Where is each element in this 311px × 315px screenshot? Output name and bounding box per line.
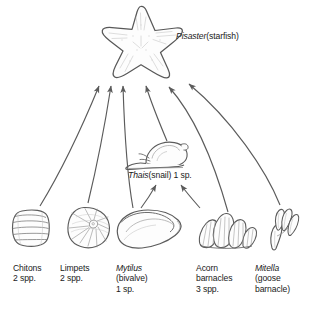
- label-thais-genus: Thais: [128, 170, 149, 180]
- label-chitons-detail: 2 spp.: [13, 273, 36, 283]
- label-mytilus-detail: (bivalve) 1 sp.: [116, 273, 148, 293]
- food-web-diagram: Pisaster(starfish) Thais(snail) 1 sp. Ch…: [0, 0, 311, 315]
- label-thais: Thais(snail) 1 sp.: [128, 170, 192, 180]
- label-acorn-barnacles: Acorn barnacles 3 spp.: [196, 263, 232, 294]
- label-limpets-name: Limpets: [60, 263, 89, 273]
- chiton-icon: [13, 210, 50, 246]
- label-mytilus: Mytilus (bivalve) 1 sp.: [116, 263, 148, 294]
- acorn-barnacle-icon: [199, 214, 256, 249]
- label-mytilus-name: Mytilus: [116, 263, 142, 273]
- label-mitella: Mitella (goose barnacle): [255, 263, 290, 294]
- label-limpets-detail: 2 spp.: [60, 273, 83, 283]
- label-mitella-detail: (goose barnacle): [255, 273, 290, 293]
- label-acorn-detail: barnacles 3 spp.: [196, 273, 232, 293]
- label-chitons: Chitons 2 spp.: [13, 263, 41, 284]
- label-acorn-name: Acorn: [196, 263, 218, 273]
- limpet-icon: [68, 207, 110, 247]
- arrow-mytilus-to-pisaster: [123, 86, 133, 208]
- label-thais-common: (snail) 1 sp.: [149, 170, 192, 180]
- arrow-thais-to-pisaster: [146, 86, 167, 141]
- goose-barnacle-icon: [271, 209, 299, 250]
- arrow-acorn-to-thais: [181, 185, 200, 208]
- arrow-mitella-to-pisaster: [189, 84, 280, 205]
- label-limpets: Limpets 2 spp.: [60, 263, 89, 284]
- arrow-mytilus-to-thais: [141, 185, 156, 208]
- label-pisaster-genus: Pisaster: [176, 31, 206, 41]
- label-mitella-name: Mitella: [255, 263, 279, 273]
- snail-icon: [126, 142, 188, 169]
- mussel-icon: [117, 210, 181, 248]
- label-chitons-name: Chitons: [13, 263, 41, 273]
- label-pisaster: Pisaster(starfish): [176, 31, 239, 41]
- arrow-group-to-thais: [141, 185, 200, 208]
- label-pisaster-common: (starfish): [206, 31, 238, 41]
- arrow-chitons-to-pisaster: [40, 86, 99, 206]
- starfish-icon: [102, 6, 182, 78]
